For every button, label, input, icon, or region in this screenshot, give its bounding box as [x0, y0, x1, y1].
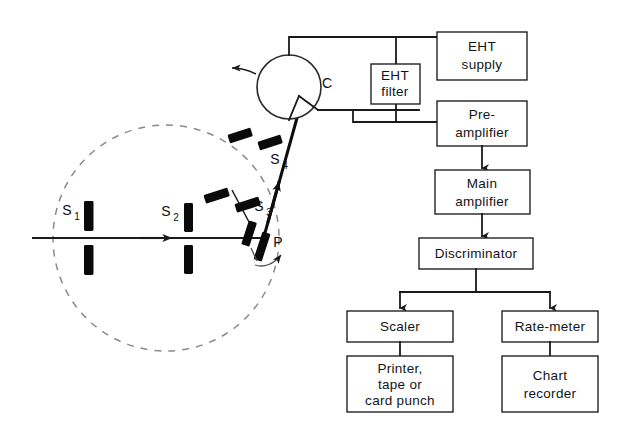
- block-discriminator-line1: Discriminator: [435, 246, 518, 261]
- slit-s4-left-jaw: [227, 127, 253, 143]
- label-slit-s4-sub: 4: [282, 160, 288, 171]
- label-slit-s2: S 2: [161, 203, 179, 223]
- diagram-root: EHT supply EHT filter Pre- amplifier Mai…: [0, 0, 636, 445]
- slit-s3-left-jaw: [203, 187, 230, 203]
- block-discriminator[interactable]: Discriminator: [419, 238, 533, 269]
- label-slit-s1-letter: S: [62, 202, 71, 218]
- block-rate-meter-line1: Rate-meter: [515, 319, 586, 334]
- block-printer-line1: Printer,: [377, 361, 422, 376]
- block-printer-line2: tape or: [378, 377, 422, 392]
- counter-c: [257, 55, 321, 120]
- slit-s1-lower-jaw: [84, 245, 94, 275]
- block-eht-supply-line2: supply: [462, 57, 503, 72]
- label-slit-s2-letter: S: [161, 203, 170, 219]
- specimen-plate-lower: [254, 231, 271, 261]
- block-main-amplifier[interactable]: Main amplifier: [435, 170, 530, 214]
- block-scaler[interactable]: Scaler: [347, 311, 453, 342]
- specimen-plate-upper: [241, 220, 257, 246]
- block-chart-recorder-rect[interactable]: [502, 356, 598, 412]
- slit-s1-upper-jaw: [84, 201, 94, 231]
- block-chart-recorder-line1: Chart: [533, 368, 568, 383]
- slit-s2-lower-jaw: [184, 245, 193, 274]
- block-rate-meter[interactable]: Rate-meter: [502, 311, 598, 342]
- block-eht-supply-line1: EHT: [468, 39, 496, 54]
- block-printer[interactable]: Printer, tape or card punch: [347, 356, 453, 412]
- block-printer-line3: card punch: [365, 393, 435, 408]
- slit-s4: [227, 127, 283, 150]
- detector-rotation-arrow-path: [232, 68, 256, 74]
- detector-rotation-arrow: [232, 68, 256, 74]
- block-eht-supply[interactable]: EHT supply: [437, 32, 527, 80]
- block-chart-recorder[interactable]: Chart recorder: [502, 356, 598, 412]
- block-eht-filter-line1: EHT: [381, 68, 409, 83]
- label-slit-s1: S 1: [62, 202, 80, 222]
- label-specimen-p: P: [273, 234, 282, 250]
- diagram-canvas: EHT supply EHT filter Pre- amplifier Mai…: [0, 0, 636, 445]
- block-preamplifier-line2: amplifier: [455, 125, 509, 140]
- label-slit-s4-letter: S: [270, 151, 279, 167]
- counter-body: [257, 55, 321, 119]
- block-preamplifier[interactable]: Pre- amplifier: [437, 101, 527, 146]
- label-slit-s1-sub: 1: [74, 211, 80, 222]
- slit-s2-upper-jaw: [184, 203, 193, 232]
- label-slit-s2-sub: 2: [173, 212, 179, 223]
- block-eht-filter[interactable]: EHT filter: [371, 64, 420, 104]
- discriminator-fanout-left: [400, 269, 476, 292]
- eht-filter-to-preamp-wire: [353, 110, 437, 122]
- block-eht-filter-line2: filter: [381, 84, 409, 99]
- block-scaler-line1: Scaler: [380, 319, 420, 334]
- label-counter-c: C: [322, 75, 332, 91]
- slit-s4-right-jaw: [257, 134, 283, 150]
- label-slit-s3-sub: 3: [266, 207, 272, 218]
- block-main-amplifier-line2: amplifier: [455, 194, 509, 209]
- block-chart-recorder-line2: recorder: [524, 386, 577, 401]
- block-preamplifier-line1: Pre-: [469, 107, 496, 122]
- label-slit-s3-letter: S: [254, 198, 263, 214]
- label-slit-s3: S 3: [254, 198, 272, 218]
- specimen-rotation-arrow: [251, 248, 281, 266]
- block-main-amplifier-line1: Main: [467, 176, 497, 191]
